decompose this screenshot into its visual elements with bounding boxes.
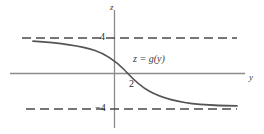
tick-label-y-intercept: 2 (129, 79, 134, 89)
tick-label-lower-asymptote: −4 (95, 103, 106, 113)
vertical-axis-label: z (110, 3, 114, 12)
tick-label-upper-asymptote: 4 (100, 32, 105, 42)
curve-equation-label: z = g(y) (133, 54, 165, 64)
figure-container: z y 4 −4 2 z = g(y) (0, 0, 264, 134)
horizontal-axis-label: y (249, 73, 253, 82)
graph-canvas (0, 0, 264, 134)
